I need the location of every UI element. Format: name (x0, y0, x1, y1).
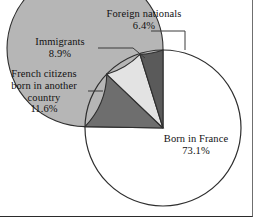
pie-label-born-in-france-value: 73.1% (150, 145, 242, 157)
pie-label-foreign-nationals-text: Foreign nationals (107, 8, 182, 19)
pie-label-foreign-nationals-value: 6.4% (84, 20, 204, 32)
pie-label-french-citizens-value: 11.6% (2, 103, 86, 115)
pie-label-french-citizens-line1: French citizens (11, 68, 76, 79)
pie-label-born-in-france-text: Born in France (164, 133, 228, 144)
pie-label-immigrants: Immigrants 8.9% (18, 36, 102, 60)
pie-label-born-in-france: Born in France 73.1% (150, 133, 242, 157)
pie-label-immigrants-value: 8.9% (18, 48, 102, 60)
pie-label-immigrants-text: Immigrants (35, 36, 84, 47)
pie-label-french-citizens: French citizens born in another country … (2, 68, 86, 115)
pie-label-french-citizens-line3: country (2, 92, 86, 104)
pie-label-french-citizens-line2: born in another (2, 80, 86, 92)
pie-label-foreign-nationals: Foreign nationals 6.4% (84, 8, 204, 32)
